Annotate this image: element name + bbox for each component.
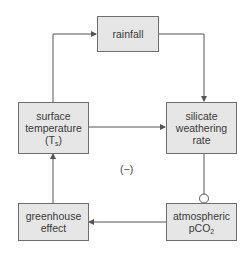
arrow-temp-to-rainfall [53,34,96,102]
node-label: atmospheric [173,210,230,222]
arrow-rainfall-to-weathering [158,34,204,101]
node-label-formula: pCO2 [189,222,215,234]
node-label: greenhouse [26,210,81,222]
node-greenhouse-effect: greenhouse effect [18,203,89,241]
node-label: weathering [176,122,227,134]
node-label: rate [192,134,210,146]
node-rainfall: rainfall [97,16,159,52]
node-silicate-weathering-rate: silicate weathering rate [166,102,237,154]
negative-link-circle-icon [200,194,209,203]
node-label: temperature [25,122,82,134]
node-atmospheric-pco2: atmospheric pCO2 [166,203,237,241]
node-label-symbol: (Ts) [45,134,62,146]
node-surface-temperature: surface temperature (Ts) [18,102,89,154]
loop-polarity-label: (−) [120,163,133,175]
node-label: effect [41,222,67,234]
node-label: surface [36,110,70,122]
node-label: rainfall [113,28,144,40]
node-label: silicate [185,110,217,122]
